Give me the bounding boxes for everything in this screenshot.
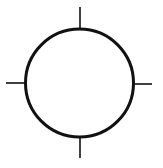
circle-outline (26, 29, 134, 137)
crosshair-circle-diagram (0, 0, 163, 168)
